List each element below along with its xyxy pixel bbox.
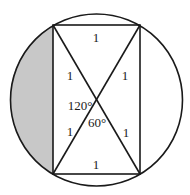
label-lower-left-diagonal: 1 (67, 124, 74, 139)
shaded-segment (10, 25, 53, 174)
label-upper-left-diagonal: 1 (67, 68, 74, 83)
label-angle-60: 60° (88, 115, 106, 130)
label-angle-120: 120° (68, 98, 93, 113)
label-lower-right-diagonal: 1 (123, 125, 130, 140)
inscribed-rectangle-diagram: 1 1 1 120° 60° 1 1 1 (0, 0, 190, 195)
label-upper-right-diagonal: 1 (122, 68, 129, 83)
label-bottom-side: 1 (93, 157, 100, 172)
label-top-side: 1 (93, 30, 100, 45)
